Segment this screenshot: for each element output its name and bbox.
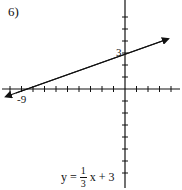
equation: y = 1 3 x + 3 (61, 166, 115, 189)
equation-lhs: y = (61, 170, 77, 185)
fraction: 1 3 (80, 166, 87, 189)
equation-rhs: x + 3 (90, 170, 115, 185)
y-tick-label: 3 (116, 47, 122, 58)
denominator: 3 (81, 179, 86, 189)
coordinate-graph (0, 0, 182, 190)
numerator: 1 (81, 166, 86, 176)
x-tick-label: -9 (17, 94, 26, 105)
